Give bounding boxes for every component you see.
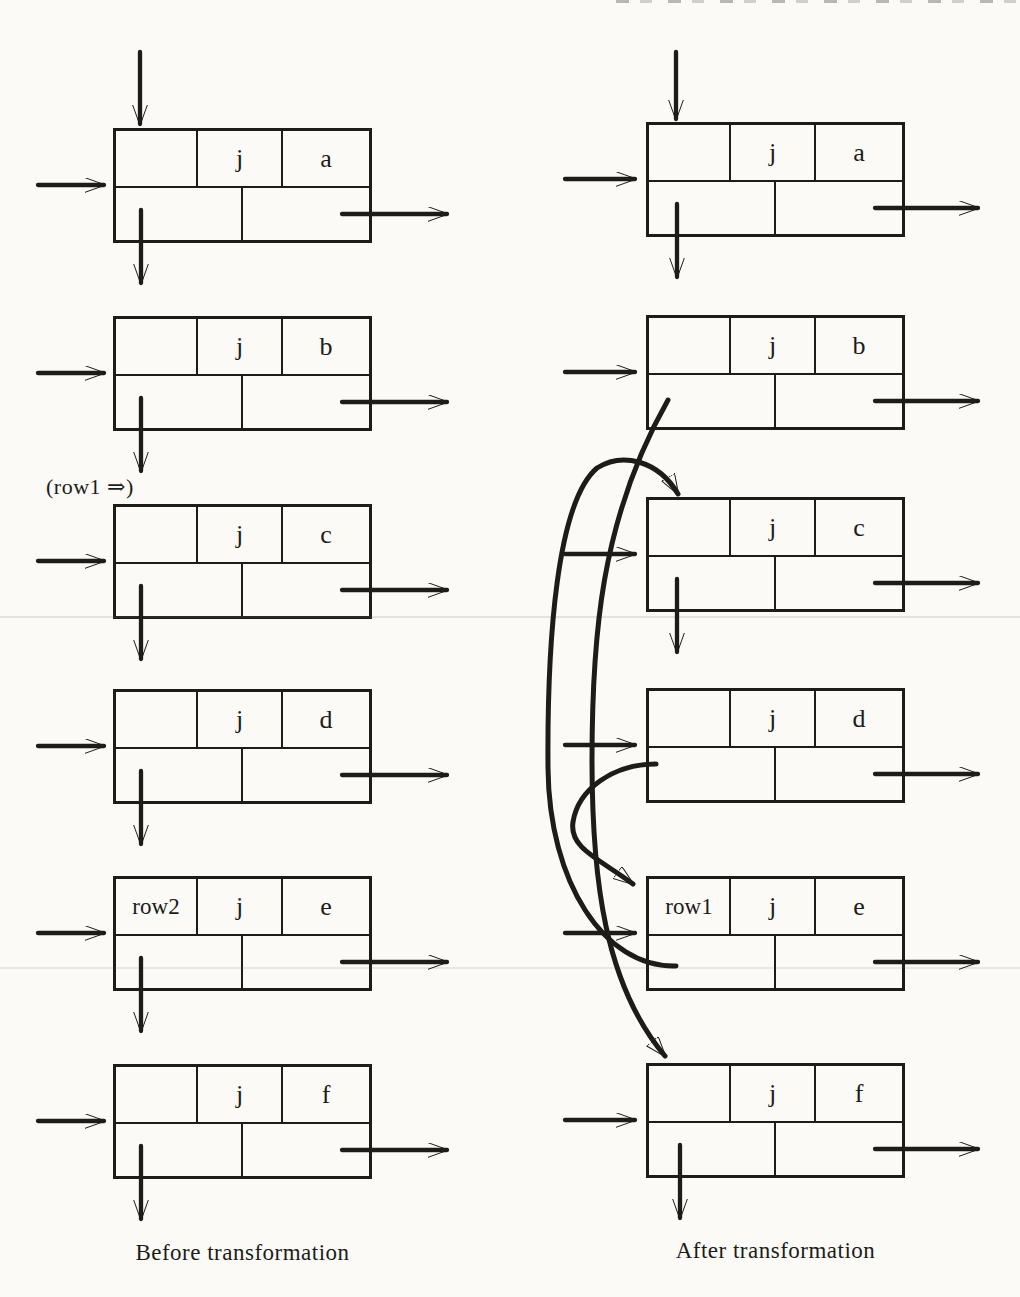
node-cell-down-field bbox=[116, 319, 198, 374]
node-cell-tag: j bbox=[731, 1066, 816, 1121]
node-cell-tag: j bbox=[198, 131, 283, 186]
node-cell-right-pointer bbox=[243, 564, 369, 616]
node-cell-tag: j bbox=[198, 319, 283, 374]
node-cell-down-pointer bbox=[649, 936, 776, 988]
curve-arrow-d-to-e bbox=[573, 764, 656, 884]
scan-artifact-top-text-remnant bbox=[616, 0, 1018, 3]
node-cell-down-pointer bbox=[116, 376, 243, 428]
node-cell-value: d bbox=[816, 691, 902, 746]
node-cell-value: f bbox=[283, 1067, 369, 1122]
node-cell-value: f bbox=[816, 1066, 902, 1121]
node-cell-right-pointer bbox=[243, 1124, 369, 1176]
node-cell-right-pointer bbox=[243, 188, 369, 240]
node-cell-down-field bbox=[649, 318, 731, 373]
before-node-c: jc bbox=[113, 504, 372, 619]
node-cell-right-pointer bbox=[776, 375, 902, 427]
node-cell-down-field bbox=[116, 692, 198, 747]
node-cell-tag: j bbox=[198, 692, 283, 747]
node-cell-right-pointer bbox=[776, 936, 902, 988]
node-cell-value: b bbox=[816, 318, 902, 373]
scan-artifact-line bbox=[0, 967, 1020, 969]
node-cell-value: e bbox=[816, 879, 902, 934]
node-cell-right-pointer bbox=[776, 1123, 902, 1175]
node-cell-right-pointer bbox=[243, 749, 369, 801]
node-cell-down-field: row1 bbox=[649, 879, 731, 934]
node-cell-down-field: row2 bbox=[116, 879, 198, 934]
node-cell-right-pointer bbox=[776, 557, 902, 609]
node-cell-tag: j bbox=[731, 500, 816, 555]
node-cell-value: c bbox=[816, 500, 902, 555]
after-node-e: row1je bbox=[646, 876, 905, 991]
node-cell-value: a bbox=[816, 125, 902, 180]
node-cell-down-field bbox=[649, 1066, 731, 1121]
node-cell-right-pointer bbox=[776, 748, 902, 800]
node-cell-down-pointer bbox=[649, 748, 776, 800]
after-node-f: jf bbox=[646, 1063, 905, 1178]
node-cell-down-field bbox=[649, 691, 731, 746]
node-cell-value: a bbox=[283, 131, 369, 186]
node-cell-tag: j bbox=[198, 879, 283, 934]
node-cell-value: e bbox=[283, 879, 369, 934]
node-cell-down-pointer bbox=[116, 1124, 243, 1176]
after-node-d: jd bbox=[646, 688, 905, 803]
figure-page: ja jb jc jd row2je jf (row1 ⇒) Before tr… bbox=[0, 0, 1020, 1297]
row1-pointer-label: (row1 ⇒) bbox=[46, 474, 134, 500]
scan-artifact-line bbox=[0, 616, 1020, 618]
node-cell-down-field bbox=[649, 500, 731, 555]
node-cell-down-field bbox=[649, 125, 731, 180]
after-caption: After transformation bbox=[646, 1238, 905, 1264]
node-cell-down-pointer bbox=[116, 936, 243, 988]
after-node-c: jc bbox=[646, 497, 905, 612]
node-cell-right-pointer bbox=[243, 376, 369, 428]
node-cell-down-pointer bbox=[116, 188, 243, 240]
before-caption: Before transformation bbox=[113, 1240, 372, 1266]
node-cell-value: d bbox=[283, 692, 369, 747]
node-cell-down-field bbox=[116, 1067, 198, 1122]
node-cell-down-pointer bbox=[649, 182, 776, 234]
node-cell-down-pointer bbox=[649, 557, 776, 609]
node-cell-down-pointer bbox=[649, 375, 776, 427]
node-cell-down-pointer bbox=[116, 749, 243, 801]
node-cell-tag: j bbox=[731, 318, 816, 373]
after-node-b: jb bbox=[646, 315, 905, 430]
node-cell-tag: j bbox=[198, 507, 283, 562]
before-node-f: jf bbox=[113, 1064, 372, 1179]
node-cell-value: b bbox=[283, 319, 369, 374]
node-cell-value: c bbox=[283, 507, 369, 562]
node-cell-tag: j bbox=[731, 691, 816, 746]
node-cell-right-pointer bbox=[243, 936, 369, 988]
node-cell-tag: j bbox=[198, 1067, 283, 1122]
after-node-a: ja bbox=[646, 122, 905, 237]
node-cell-down-field bbox=[116, 131, 198, 186]
before-node-b: jb bbox=[113, 316, 372, 431]
node-cell-tag: j bbox=[731, 879, 816, 934]
node-cell-down-pointer bbox=[116, 564, 243, 616]
node-cell-down-field bbox=[116, 507, 198, 562]
node-cell-right-pointer bbox=[776, 182, 902, 234]
before-node-e: row2je bbox=[113, 876, 372, 991]
before-node-a: ja bbox=[113, 128, 372, 243]
node-cell-tag: j bbox=[731, 125, 816, 180]
before-node-d: jd bbox=[113, 689, 372, 804]
node-cell-down-pointer bbox=[649, 1123, 776, 1175]
